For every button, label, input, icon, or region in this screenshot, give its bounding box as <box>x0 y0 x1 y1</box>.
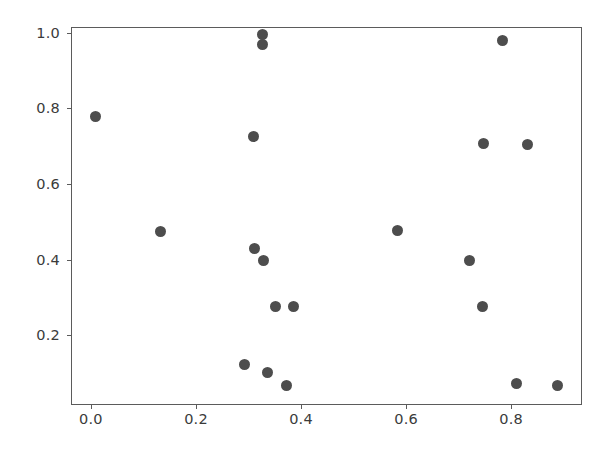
scatter-plot-figure: 0.00.20.40.60.8 0.20.40.60.81.0 <box>0 0 613 458</box>
y-tick-label: 1.0 <box>36 25 60 41</box>
data-point <box>477 301 488 312</box>
x-tick-label: 0.8 <box>499 411 523 427</box>
data-point <box>270 301 281 312</box>
data-point <box>249 243 260 254</box>
y-tick-mark <box>67 33 71 34</box>
data-point <box>155 226 166 237</box>
y-tick-label: 0.2 <box>36 327 60 343</box>
data-point <box>511 378 522 389</box>
x-tick-mark <box>196 405 197 409</box>
data-point <box>478 138 489 149</box>
data-point <box>464 255 475 266</box>
data-point <box>90 111 101 122</box>
data-point <box>288 301 299 312</box>
data-point <box>258 255 269 266</box>
data-point <box>248 131 259 142</box>
y-tick-mark <box>67 184 71 185</box>
data-point <box>281 380 292 391</box>
data-point <box>522 139 533 150</box>
x-tick-label: 0.2 <box>184 411 208 427</box>
data-point <box>552 380 563 391</box>
x-tick-mark <box>91 405 92 409</box>
data-point <box>392 225 403 236</box>
x-tick-mark <box>406 405 407 409</box>
y-tick-mark <box>67 335 71 336</box>
x-tick-label: 0.4 <box>289 411 313 427</box>
data-points-layer <box>72 28 581 404</box>
y-tick-mark <box>67 108 71 109</box>
y-tick-label: 0.8 <box>36 100 60 116</box>
y-tick-label: 0.6 <box>36 176 60 192</box>
x-tick-label: 0.6 <box>394 411 418 427</box>
data-point <box>257 29 268 40</box>
x-tick-mark <box>511 405 512 409</box>
data-point <box>262 367 273 378</box>
plot-area <box>71 27 582 405</box>
data-point <box>257 39 268 50</box>
y-tick-mark <box>67 260 71 261</box>
x-tick-label: 0.0 <box>79 411 103 427</box>
y-tick-label: 0.4 <box>36 252 60 268</box>
x-tick-mark <box>301 405 302 409</box>
data-point <box>497 35 508 46</box>
data-point <box>239 359 250 370</box>
